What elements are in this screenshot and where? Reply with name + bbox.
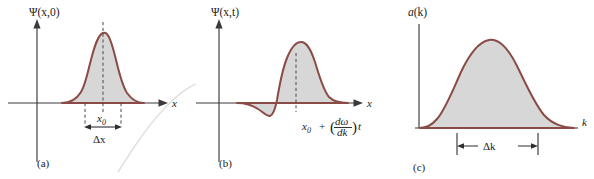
panel-b-center-label: x0 + ( dω dk ) t [301, 115, 362, 138]
panel-a-y-axis-label: Ψ(x,0) [29, 6, 60, 19]
panel-b-y-axis-label: Ψ(x,t) [211, 6, 239, 19]
panel-b-y-axis [215, 19, 222, 162]
panel-a-y-axis [33, 19, 40, 162]
paren-close: ) [352, 119, 357, 136]
panel-a-x-axis-label: x [171, 97, 177, 109]
panel-b-x-axis-label: x [366, 97, 372, 109]
panel-b-center-base: x0 [301, 120, 311, 135]
psi-xt-curve [237, 42, 348, 116]
x-axis-arrowhead-b [354, 99, 364, 106]
panel-a-center-label: x0 [96, 112, 106, 127]
panel-a-label: (a) [37, 157, 50, 170]
panel-b-label: (b) [219, 157, 232, 170]
y-axis-arrowhead-b [215, 19, 222, 29]
panel-c-x-axis-label: k [582, 116, 588, 128]
panel-a: Ψ(x,0) x x0 Δx (a) [8, 6, 196, 172]
panel-a-width-label: Δx [93, 133, 106, 145]
panel-c-y-axis-label: a(k) [408, 6, 427, 19]
ak-curve [420, 40, 574, 128]
wave-packet-figure: Ψ(x,0) x x0 Δx (a) Ψ(x,t) x x0 + ( dω [0, 0, 594, 179]
panel-c: Δk a(k) k (c) [408, 6, 588, 174]
panel-b-plus-sign: + [319, 120, 325, 132]
panel-b: Ψ(x,t) x x0 + ( dω dk ) t (b) [196, 6, 372, 170]
fraction-suffix: t [358, 120, 362, 132]
panel-c-label: (c) [413, 161, 426, 174]
fraction-denominator: dk [337, 126, 349, 138]
delta-k-measure-arrow: Δk [457, 133, 538, 155]
panel-c-width-label: Δk [483, 140, 496, 152]
y-axis-arrowhead-a [33, 19, 40, 29]
